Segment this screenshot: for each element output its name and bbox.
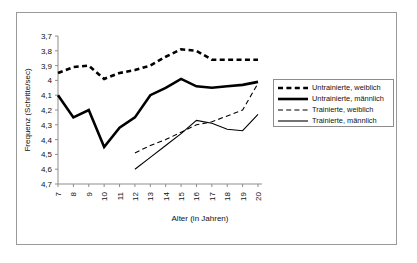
- y-tick-label: 4,7: [41, 180, 53, 189]
- series-line-0: [58, 49, 258, 79]
- x-tick-label: 16: [192, 191, 201, 200]
- x-tick-label: 11: [116, 191, 125, 200]
- legend-label-trainierte-maennlich: Trainierte, männlich: [312, 116, 377, 126]
- legend-item: Trainierte, weiblich: [277, 104, 390, 115]
- x-axis-title: Alter (in Jahren): [172, 214, 229, 223]
- x-tick-label: 13: [146, 191, 155, 200]
- legend-item: Untrainierte, weiblich: [277, 82, 390, 93]
- series-line-1: [58, 79, 258, 147]
- data-series: [58, 49, 258, 169]
- legend-item: Untrainierte, männlich: [277, 93, 390, 104]
- y-tick-label: 3,8: [41, 47, 53, 56]
- y-tick-label: 4,2: [41, 106, 53, 115]
- legend-label-untrainierte-weiblich: Untrainierte, weiblich: [312, 83, 381, 93]
- x-tick-label: 14: [162, 191, 171, 200]
- y-tick-label: 4,1: [41, 91, 53, 100]
- legend-label-trainierte-weiblich: Trainierte, weiblich: [312, 105, 373, 115]
- legend-key-trainierte-maennlich: [277, 116, 309, 126]
- x-tick-label: 10: [100, 191, 109, 200]
- y-axis-title: Frequenz (Schritte/sec): [23, 68, 32, 151]
- legend-item: Trainierte, männlich: [277, 115, 390, 126]
- x-tick-label: 9: [85, 191, 94, 196]
- y-tick-label: 3,7: [41, 32, 53, 41]
- legend-label-untrainierte-maennlich: Untrainierte, männlich: [312, 94, 384, 104]
- x-tick-label: 20: [254, 191, 263, 200]
- x-tick-label: 18: [223, 191, 232, 200]
- axis-labels: 3,73,83,944,14,24,34,44,54,64,7789101112…: [23, 32, 263, 223]
- y-tick-label: 4,5: [41, 150, 53, 159]
- x-tick-label: 15: [177, 191, 186, 200]
- chart-legend: Untrainierte, weiblich Untrainierte, män…: [273, 79, 394, 127]
- x-tick-label: 19: [239, 191, 248, 200]
- chart-figure: 3,73,83,944,14,24,34,44,54,64,7789101112…: [16, 12, 397, 245]
- x-tick-label: 12: [131, 191, 140, 200]
- x-tick-label: 8: [69, 191, 78, 196]
- series-line-3: [135, 114, 258, 169]
- x-tick-label: 17: [208, 191, 217, 200]
- legend-key-trainierte-weiblich: [277, 105, 309, 115]
- legend-key-untrainierte-maennlich: [277, 94, 309, 104]
- y-tick-label: 4: [48, 76, 53, 85]
- y-tick-label: 3,9: [41, 62, 53, 71]
- chart-plot-area: 3,73,83,944,14,24,34,44,54,64,7789101112…: [17, 13, 396, 244]
- y-tick-label: 4,6: [41, 165, 53, 174]
- x-tick-label: 7: [54, 191, 63, 196]
- y-tick-label: 4,3: [41, 121, 53, 130]
- y-tick-label: 4,4: [41, 136, 53, 145]
- legend-key-untrainierte-weiblich: [277, 83, 309, 93]
